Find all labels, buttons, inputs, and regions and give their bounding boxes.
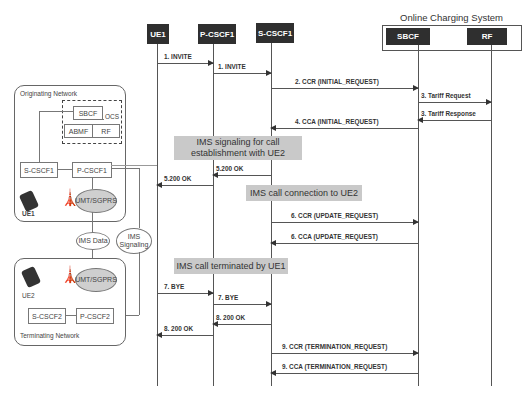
term-scscf2: S-CSCF2 xyxy=(28,308,66,324)
term-pcscf2: P-CSCF2 xyxy=(76,308,114,324)
note-call-establishment: IMS signaling for call establishment wit… xyxy=(174,136,302,160)
orig-sbcf: SBCF xyxy=(73,106,103,120)
ims-data-cloud: IMS Data xyxy=(76,232,110,250)
link-scscf-pcscf xyxy=(57,169,72,170)
msg-3a: 3. Tariff Request xyxy=(418,102,491,103)
ocs-title: Online Charging System xyxy=(400,12,503,23)
entity-pcscf1: P-CSCF1 xyxy=(198,24,236,44)
originating-network-label: Originating Network xyxy=(20,90,77,97)
orig-pcscf1: P-CSCF1 xyxy=(72,162,112,178)
ims-signaling-cloud: IMS Signaling xyxy=(116,228,152,254)
ocs-label: OCS xyxy=(105,113,119,120)
orig-abmf: ABMF xyxy=(64,124,93,138)
note-call-terminated: IMS call terminated by UE1 xyxy=(174,258,288,274)
msg-1b: 1. INVITE xyxy=(213,73,271,74)
terminating-network-label: Terminating Network xyxy=(20,332,79,339)
link-scscf-sbcf-h xyxy=(39,111,73,112)
link-signaling-bot-v xyxy=(139,252,140,315)
lifeline-rf xyxy=(491,45,492,386)
msg-7a: 7. BYE xyxy=(157,293,213,294)
msg-6a: 6. CCR (UPDATE_REQUEST) xyxy=(271,222,418,223)
note-call-connection: IMS call connection to UE2 xyxy=(246,185,362,201)
msg-6b: 6. CCA (UPDATE_REQUEST) xyxy=(271,243,418,244)
link-sbcf-children xyxy=(78,119,104,120)
link-scscf2-pcscf2 xyxy=(65,315,76,316)
msg-9a: 9. CCR (TERMINATION_REQUEST) xyxy=(271,353,418,354)
link-pcscf1-to-sequence xyxy=(111,165,157,166)
orig-scscf1: S-CSCF1 xyxy=(20,162,58,178)
link-signaling-top-h xyxy=(111,168,139,169)
orig-radio-cloud: UMT/SGPRS xyxy=(75,189,117,213)
link-scscf-sbcf-v xyxy=(39,111,40,162)
lifeline-pcscf1 xyxy=(213,44,214,386)
orig-ue-label: UE1 xyxy=(22,210,35,217)
entity-sbcf: SBCF xyxy=(386,28,430,45)
msg-4: 4. CCA (INITIAL_REQUEST) xyxy=(271,128,418,129)
lifeline-scscf1 xyxy=(271,43,272,386)
msg-3b: 3. Tariff Response xyxy=(418,120,491,121)
entity-scscf1: S-CSCF1 xyxy=(256,23,294,43)
msg-8a: 8. 200 OK xyxy=(213,324,271,325)
entity-ue1: UE1 xyxy=(147,24,169,44)
term-radio-cloud: UMT/SGPRS xyxy=(75,268,117,292)
link-pcscf-radio xyxy=(92,177,93,189)
entity-rf: RF xyxy=(467,28,507,45)
msg-7b: 7. BYE xyxy=(213,304,271,305)
msg-9b: 9. CCA (TERMINATION_REQUEST) xyxy=(271,373,418,374)
msg-5a: 5.200 OK xyxy=(213,175,271,176)
lifeline-sbcf xyxy=(418,45,419,386)
msg-1a: 1. INVITE xyxy=(157,63,213,64)
orig-rf: RF xyxy=(92,124,120,138)
msg-8b: 8. 200 OK xyxy=(157,335,213,336)
msg-5b: 5.200 OK xyxy=(157,185,213,186)
msg-2: 2. CCR (INITIAL_REQUEST) xyxy=(271,88,418,89)
link-signaling-top-v xyxy=(139,168,140,228)
term-ue-label: UE2 xyxy=(22,292,35,299)
